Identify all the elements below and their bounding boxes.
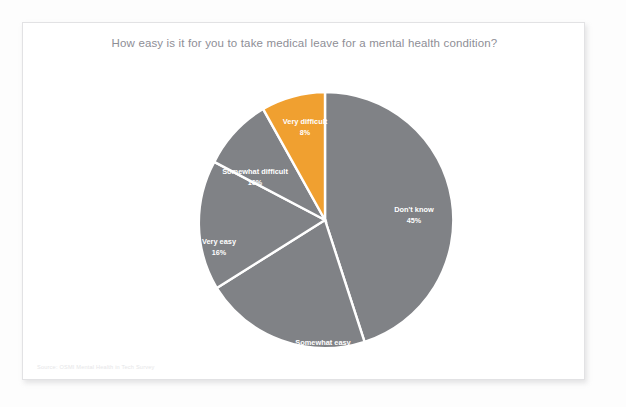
chart-card: How easy is it for you to take medical l… xyxy=(22,22,585,380)
pie-value-very-difficult: 8% xyxy=(300,128,311,137)
page-title: How easy is it for you to take medical l… xyxy=(23,37,586,49)
pie-value-somewhat-difficult: 10% xyxy=(248,178,263,187)
pie-value-very-easy: 16% xyxy=(212,248,227,257)
pie-label-dont-know: Don't know xyxy=(394,205,434,214)
source-note: Source: OSMI Mental Health in Tech Surve… xyxy=(37,364,155,370)
pie-label-somewhat-difficult: Somewhat difficult xyxy=(222,167,288,176)
pie-label-very-easy: Very easy xyxy=(202,237,237,246)
pie-label-very-difficult: Very difficult xyxy=(283,117,328,126)
pie-chart: Don't know 45% Somewhat easy 21% Very ea… xyxy=(197,92,453,348)
pie-label-somewhat-easy: Somewhat easy xyxy=(295,338,351,347)
scanned-page: How easy is it for you to take medical l… xyxy=(0,0,626,407)
pie-value-dont-know: 45% xyxy=(407,216,422,225)
pie-chart-svg: Don't know 45% Somewhat easy 21% Very ea… xyxy=(197,92,453,348)
